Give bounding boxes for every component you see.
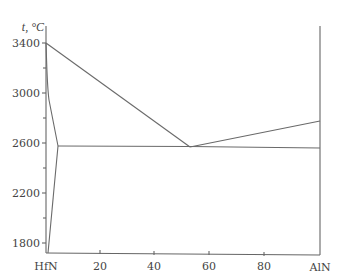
liquidus-left-line <box>46 43 190 147</box>
eutectic-line <box>58 146 320 148</box>
solidus-line <box>46 43 58 146</box>
phase-diagram: 3400 3000 2600 2200 1800 t, °C HfN 20 40… <box>0 0 345 280</box>
x-tick-label: 20 <box>93 260 107 273</box>
x-tick-label: 40 <box>147 260 161 273</box>
x-ticks <box>100 250 264 256</box>
solvus-line <box>48 146 58 253</box>
y-tick-label: 1800 <box>12 237 40 250</box>
y-tick-label: 3400 <box>12 37 40 50</box>
y-tick-label: 3000 <box>12 87 40 100</box>
x-tick-label-aln: AlN <box>308 261 330 274</box>
x-axis <box>46 253 320 255</box>
y-axis-title: t, °C <box>22 20 45 34</box>
y-tick-label: 2200 <box>12 187 40 200</box>
x-tick-label-hfn: HfN <box>34 260 58 273</box>
y-tick-label: 2600 <box>12 137 40 150</box>
liquidus-right-line <box>190 121 320 147</box>
x-tick-label: 60 <box>202 260 216 273</box>
y-ticks <box>42 43 46 243</box>
x-tick-label: 80 <box>257 260 271 273</box>
